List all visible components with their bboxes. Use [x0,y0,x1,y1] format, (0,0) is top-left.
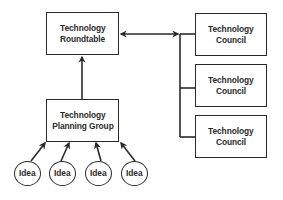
idea-node-3: Idea [85,161,112,186]
planning-group-node: Technology Planning Group [46,99,119,142]
council-node-3: Technology Council [195,115,267,158]
idea-2-label: Idea [54,168,70,179]
roundtable-label-line2: Roundtable [60,34,105,45]
council-node-2: Technology Council [195,64,267,107]
arrow-idea-2 [61,143,69,161]
arrow-idea-1 [31,143,45,161]
idea-node-1: Idea [14,161,41,186]
arrow-idea-3 [96,143,101,161]
arrow-idea-4 [121,143,135,161]
roundtable-node: Technology Roundtable [46,12,119,55]
council-2-label-line2: Council [216,86,246,97]
idea-node-2: Idea [49,161,76,186]
planning-label-line2: Planning Group [52,121,113,132]
idea-3-label: Idea [90,168,106,179]
council-1-label-line2: Council [216,35,246,46]
council-node-1: Technology Council [195,13,267,56]
idea-1-label: Idea [19,168,35,179]
idea-node-4: Idea [121,161,148,186]
idea-4-label: Idea [126,168,142,179]
council-3-label-line2: Council [216,137,246,148]
